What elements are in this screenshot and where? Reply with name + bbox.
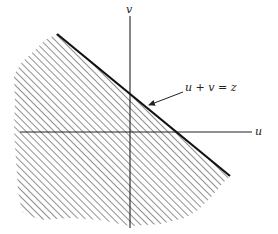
u-axis-label: u (255, 125, 262, 138)
v-axis-label: v (126, 3, 133, 16)
label-arrow (149, 92, 183, 105)
half-plane-diagram: v u u + v = z (0, 0, 278, 234)
line-equation-label: u + v = z (185, 81, 237, 94)
shaded-region (14, 34, 230, 226)
